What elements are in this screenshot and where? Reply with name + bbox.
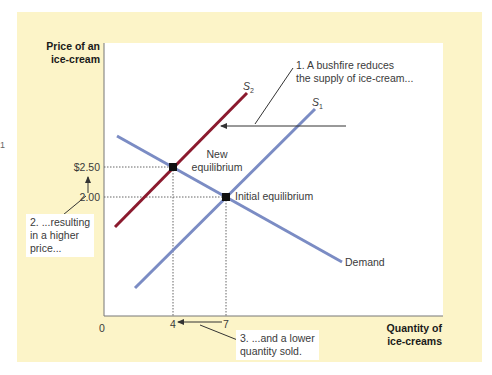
callout1-line1: 1. A bushfire reduces [296,59,413,72]
callout2-line3: price... [30,242,90,255]
y-axis-label: Price of an ice-cream [38,40,100,66]
callout-higher-price: 2. ...resulting in a higher price... [26,214,94,257]
new-eq-line2: equilibrium [186,161,248,174]
callout3-line2: quantity sold. [240,345,315,358]
callout2-line1: 2. ...resulting [30,216,90,229]
s2-label: S2 [243,80,254,97]
x-tick-high: 7 [223,318,229,331]
s2-label-text: S [243,80,250,92]
x-axis-label: Quantity of ice-creams [380,322,442,348]
initial-equilibrium-label: Initial equilibrium [235,190,313,203]
callout1-line2: the supply of ice-cream... [296,72,413,85]
demand-label: Demand [345,256,385,269]
s2-label-sub: 2 [250,87,254,94]
callout3-pointer [200,325,240,341]
x-tick-low: 4 [170,318,176,331]
x-axis-label-line2: ice-creams [380,335,442,348]
x-tick-origin: 0 [99,322,105,335]
y-tick-low: 2.00 [60,191,100,204]
new-equilibrium-point [169,163,177,171]
new-equilibrium-label: New equilibrium [186,148,248,174]
callout2-line2: in a higher [30,229,90,242]
callout3-line1: 3. ...and a lower [240,332,315,345]
s1-label-sub: 1 [319,103,323,110]
callout1-pointer [255,68,293,124]
s1-label: S1 [312,96,323,113]
margin-mark: 1 [0,140,5,150]
x-axis-label-line1: Quantity of [380,322,442,335]
y-tick-high: $2.50 [60,161,100,174]
callout-lower-quantity: 3. ...and a lower quantity sold. [236,330,319,360]
new-eq-line1: New [186,148,248,161]
y-axis-label-line2: ice-cream [38,53,100,66]
y-axis-label-line1: Price of an [38,40,100,53]
initial-equilibrium-point [222,193,230,201]
callout-supply-reduction: 1. A bushfire reduces the supply of ice-… [294,57,415,87]
s1-label-text: S [312,96,319,108]
